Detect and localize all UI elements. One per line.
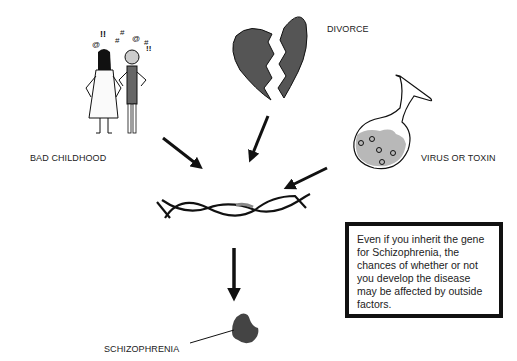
dna-helix-icon xyxy=(157,194,310,218)
svg-text:!!: !! xyxy=(146,44,151,53)
svg-text:#: # xyxy=(120,28,125,37)
info-note-box: Even if you inherit the gene for Schizop… xyxy=(345,222,503,318)
svg-text:!!: !! xyxy=(100,29,106,39)
arrow-divorce-to-gene xyxy=(251,116,268,158)
svg-text:@: @ xyxy=(92,40,100,49)
svg-text:@: @ xyxy=(132,34,140,43)
brain-region-icon xyxy=(190,314,258,344)
arrow-childhood-to-gene xyxy=(163,138,199,166)
flask-icon xyxy=(354,75,432,168)
arrow-virus-to-gene xyxy=(288,168,327,187)
arguing-couple-icon: @ !! # # @ # !! xyxy=(86,28,151,133)
broken-heart-icon xyxy=(233,17,307,100)
label-schizophrenia: SCHIZOPHRENIA xyxy=(104,344,179,354)
label-divorce: DIVORCE xyxy=(327,24,369,34)
label-bad-childhood: BAD CHILDHOOD xyxy=(30,153,106,163)
info-note-text: Even if you inherit the gene for Schizop… xyxy=(357,233,484,310)
label-virus-or-toxin: VIRUS OR TOXIN xyxy=(421,153,496,163)
svg-text:#: # xyxy=(115,36,120,45)
